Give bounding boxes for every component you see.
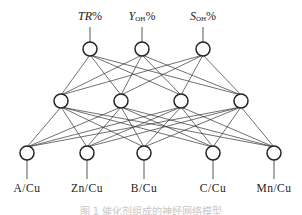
edge-hidden-output bbox=[203, 55, 241, 95]
input-node bbox=[267, 146, 281, 160]
output-label-yoh: YOH% bbox=[129, 9, 156, 24]
hidden-node bbox=[234, 94, 248, 108]
edge-hidden-output bbox=[90, 55, 241, 95]
hidden-node bbox=[174, 94, 188, 108]
edge-input-hidden bbox=[181, 107, 274, 147]
input-label-c-cu: C/Cu bbox=[200, 182, 226, 194]
input-label-a-cu: A/Cu bbox=[14, 182, 41, 194]
network-nodes bbox=[20, 42, 281, 160]
edge-hidden-output bbox=[61, 55, 203, 95]
edge-input-hidden bbox=[27, 107, 61, 147]
output-label-soh: SOH% bbox=[190, 9, 216, 24]
edge-hidden-output bbox=[90, 55, 181, 95]
edge-hidden-output bbox=[121, 55, 142, 95]
output-node bbox=[135, 42, 149, 56]
hidden-node bbox=[54, 94, 68, 108]
edge-hidden-output bbox=[61, 55, 90, 95]
input-node bbox=[206, 146, 220, 160]
edge-input-hidden bbox=[241, 107, 274, 147]
input-node bbox=[137, 146, 151, 160]
edge-input-hidden bbox=[121, 107, 274, 147]
edge-hidden-output bbox=[90, 55, 121, 95]
output-node bbox=[83, 42, 97, 56]
edge-hidden-output bbox=[142, 55, 181, 95]
figure-caption: 图 1 催化剂组成的神经网络模型 bbox=[0, 203, 302, 215]
edge-input-hidden bbox=[61, 107, 213, 147]
edge-hidden-output bbox=[61, 55, 142, 95]
edge-input-hidden bbox=[121, 107, 144, 147]
input-node bbox=[20, 146, 34, 160]
input-node bbox=[80, 146, 94, 160]
edge-input-hidden bbox=[87, 107, 241, 147]
input-label-b-cu: B/Cu bbox=[131, 182, 157, 194]
input-label-zn-cu: Zn/Cu bbox=[71, 182, 103, 194]
input-label-mn-cu: Mn/Cu bbox=[256, 182, 291, 194]
output-label-tr: TR% bbox=[78, 9, 102, 24]
edge-input-hidden bbox=[144, 107, 181, 147]
output-node bbox=[196, 42, 210, 56]
hidden-node bbox=[114, 94, 128, 108]
edge-hidden-output bbox=[142, 55, 241, 95]
